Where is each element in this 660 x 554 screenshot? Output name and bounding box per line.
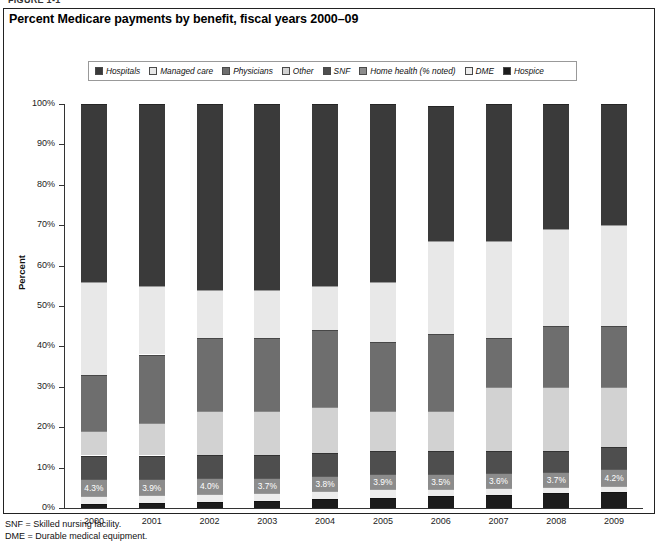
bar-segment[interactable]: 3.9% — [370, 474, 396, 490]
bar-segment[interactable] — [254, 501, 280, 508]
bar-segment[interactable] — [197, 411, 223, 455]
bar-segment[interactable] — [254, 455, 280, 477]
bar-segment[interactable]: 3.8% — [312, 476, 338, 491]
bar-segment[interactable] — [197, 502, 223, 508]
bar-segment[interactable] — [312, 104, 338, 286]
bar-segment[interactable] — [486, 387, 512, 452]
bar-segment[interactable] — [81, 104, 107, 282]
bar-segment[interactable] — [543, 104, 569, 229]
stacked-bar[interactable]: 3.5% — [428, 104, 454, 508]
bar-segment[interactable] — [601, 225, 627, 326]
bar-segment[interactable] — [370, 489, 396, 497]
bar-segment[interactable]: 3.5% — [428, 474, 454, 488]
bar-segment[interactable] — [81, 456, 107, 479]
bar-segment[interactable] — [543, 487, 569, 493]
bar-segment[interactable] — [139, 503, 165, 508]
bar-segment[interactable] — [601, 492, 627, 508]
bar-segment[interactable] — [81, 496, 107, 504]
legend-item[interactable]: Managed care — [149, 66, 213, 76]
bar-segment[interactable] — [312, 491, 338, 499]
legend-item[interactable]: SNF — [323, 66, 351, 76]
bar-segment[interactable] — [139, 495, 165, 503]
bar-segment[interactable] — [370, 498, 396, 509]
bar-segment[interactable] — [312, 499, 338, 508]
bar-segment[interactable] — [428, 106, 454, 241]
bar-segment[interactable] — [254, 104, 280, 290]
bar-segment[interactable] — [486, 495, 512, 508]
bar-segment[interactable] — [428, 334, 454, 411]
bar-segment[interactable] — [428, 241, 454, 334]
bar-segment[interactable]: 4.0% — [197, 478, 223, 494]
y-axis-tick-mark — [59, 346, 65, 347]
bar-segment[interactable]: 4.3% — [81, 479, 107, 496]
bar-segment[interactable] — [601, 486, 627, 492]
stacked-bar[interactable]: 3.8% — [312, 104, 338, 508]
bar-segment[interactable] — [139, 286, 165, 355]
bar-segment[interactable] — [197, 494, 223, 502]
legend-item[interactable]: Home health (% noted) — [359, 66, 455, 76]
bar-segment[interactable] — [81, 431, 107, 455]
bar-segment[interactable] — [139, 423, 165, 455]
bar-segment[interactable] — [543, 326, 569, 387]
bar-segment[interactable] — [601, 447, 627, 469]
bar-segment[interactable]: 3.7% — [543, 472, 569, 487]
bar-segment[interactable] — [370, 282, 396, 343]
bar-segment[interactable] — [197, 290, 223, 338]
bar-segment[interactable] — [543, 493, 569, 508]
bar-segment[interactable] — [254, 411, 280, 455]
bar-segment[interactable] — [197, 338, 223, 411]
stacked-bar[interactable]: 3.7% — [543, 104, 569, 508]
stacked-bar[interactable]: 4.2% — [601, 104, 627, 508]
legend-item[interactable]: Physicians — [222, 66, 273, 76]
bar-segment[interactable] — [81, 375, 107, 432]
legend-item[interactable]: DME — [465, 66, 494, 76]
bar-segment[interactable]: 4.2% — [601, 469, 627, 486]
bar-segment[interactable] — [601, 104, 627, 225]
stacked-bar[interactable]: 3.9% — [370, 104, 396, 508]
bar-segment[interactable] — [312, 453, 338, 475]
bar-segment[interactable] — [81, 282, 107, 375]
bar-segment[interactable] — [486, 104, 512, 241]
stacked-bar[interactable]: 3.6% — [486, 104, 512, 508]
bar-segment[interactable] — [370, 104, 396, 282]
bar-segment[interactable]: 3.6% — [486, 473, 512, 488]
bar-segment[interactable]: 3.9% — [139, 479, 165, 495]
bar-segment[interactable] — [254, 338, 280, 411]
bar-segment[interactable] — [312, 330, 338, 407]
legend-item[interactable]: Other — [282, 66, 314, 76]
bar-segment[interactable] — [139, 456, 165, 480]
bar-segment[interactable] — [370, 451, 396, 473]
bar-segment[interactable] — [428, 451, 454, 474]
legend-item[interactable]: Hospice — [503, 66, 544, 76]
bar-segment[interactable]: 3.7% — [254, 478, 280, 493]
bar-segment[interactable] — [601, 387, 627, 448]
bar-segment[interactable] — [486, 451, 512, 473]
stacked-bar[interactable]: 4.0% — [197, 104, 223, 508]
bar-segment[interactable] — [254, 493, 280, 501]
bar-segment[interactable] — [312, 407, 338, 453]
stacked-bar[interactable]: 3.9% — [139, 104, 165, 508]
bar-segment[interactable] — [428, 489, 454, 496]
bar-segment[interactable] — [197, 104, 223, 290]
stacked-bar[interactable]: 3.7% — [254, 104, 280, 508]
bar-segment[interactable] — [370, 342, 396, 411]
legend-item[interactable]: Hospitals — [95, 66, 140, 76]
bar-segment[interactable] — [486, 488, 512, 495]
bar-segment-value-label: 3.7% — [543, 475, 569, 485]
stacked-bar[interactable]: 4.3% — [81, 104, 107, 508]
bar-segment[interactable] — [486, 241, 512, 338]
bar-segment[interactable] — [370, 411, 396, 451]
bar-segment[interactable] — [486, 338, 512, 386]
bar-segment[interactable] — [543, 451, 569, 472]
bar-segment[interactable] — [601, 326, 627, 387]
bar-segment[interactable] — [428, 411, 454, 451]
bar-segment[interactable] — [254, 290, 280, 338]
bar-segment[interactable] — [543, 387, 569, 452]
bar-segment[interactable] — [139, 355, 165, 424]
bar-segment[interactable] — [139, 104, 165, 286]
bar-segment[interactable] — [312, 286, 338, 330]
bar-segment[interactable] — [197, 455, 223, 477]
bar-segment[interactable] — [543, 229, 569, 326]
bar-segment[interactable] — [428, 496, 454, 508]
bar-segment[interactable] — [81, 504, 107, 508]
